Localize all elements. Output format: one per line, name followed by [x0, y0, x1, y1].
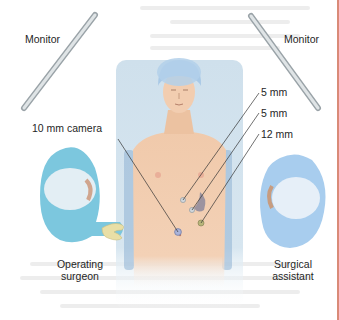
camera-port-label: 10 mm camera: [32, 122, 102, 134]
monitor-left-label: Monitor: [25, 33, 60, 45]
port-12mm-label: 12 mm: [261, 128, 293, 140]
surgical-assistant: [260, 154, 326, 248]
port-5mm-lower-label: 5 mm: [261, 107, 287, 119]
operating-surgeon: [40, 147, 124, 242]
monitor-right-label: Monitor: [284, 33, 319, 45]
assistant-label-line1: Surgical: [263, 258, 323, 270]
monitor-left-icon: [24, 15, 95, 108]
surgeon-label-line2: surgeon: [50, 270, 110, 282]
port-5mm-upper-label: 5 mm: [261, 86, 287, 98]
assistant-label-line2: assistant: [263, 270, 323, 282]
surgeon-label-line1: Operating: [50, 258, 110, 270]
surgical-assistant-label: Surgical assistant: [263, 258, 323, 282]
operating-surgeon-label: Operating surgeon: [50, 258, 110, 282]
laparoscopy-setup-diagram: Monitor Monitor 10 mm camera 5 mm 5 mm 1…: [0, 0, 339, 320]
page-edge-line: [337, 0, 339, 320]
